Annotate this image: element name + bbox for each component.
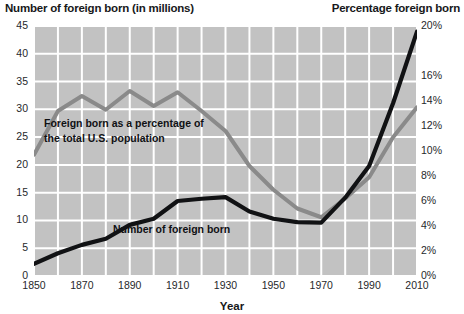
x-axis-tick: 1990 [349,279,389,291]
right-axis-tick: 20% [421,19,451,31]
x-axis-tick: 1970 [301,279,341,291]
percentage-line-annotation: Foreign born as a percentage of the tota… [44,116,204,146]
number-line-annotation: Number of foreign born [113,222,230,237]
right-axis-tick: 10% [421,144,451,156]
left-axis-tick: 25 [2,130,28,142]
right-axis-tick: 8% [421,169,451,181]
right-axis-tick: 14% [421,94,451,106]
x-axis-tick: 1950 [253,279,293,291]
gridlines [34,26,417,276]
right-axis-tick: 6% [421,194,451,206]
left-axis-title: Number of foreign born (in millions) [5,2,194,14]
plot-svg [34,26,417,276]
x-axis-tick: 1930 [206,279,246,291]
right-axis-tick: 16% [421,69,451,81]
left-axis-tick: 35 [2,75,28,87]
plot-area [34,26,417,276]
x-axis-tick: 1870 [62,279,102,291]
right-axis-tick: 2% [421,244,451,256]
left-axis-tick: 10 [2,213,28,225]
x-axis-tick: 2010 [397,279,437,291]
percentage-annotation-line2: the total U.S. population [44,131,204,146]
percentage-annotation-line1: Foreign born as a percentage of [44,116,204,131]
x-axis-title: Year [0,300,464,312]
foreign-born-chart-figure: Number of foreign born (in millions) Per… [0,0,464,314]
right-axis-title: Percentage foreign born [332,2,460,14]
left-axis-tick: 45 [2,19,28,31]
x-axis-tick: 1890 [110,279,150,291]
left-axis-tick: 5 [2,241,28,253]
left-axis-tick: 40 [2,47,28,59]
left-axis-tick: 15 [2,186,28,198]
x-axis-tick: 1910 [158,279,198,291]
right-axis-tick: 12% [421,119,451,131]
x-axis-tick: 1850 [14,279,54,291]
left-axis-tick: 20 [2,158,28,170]
right-axis-tick: 4% [421,219,451,231]
left-axis-tick: 30 [2,102,28,114]
